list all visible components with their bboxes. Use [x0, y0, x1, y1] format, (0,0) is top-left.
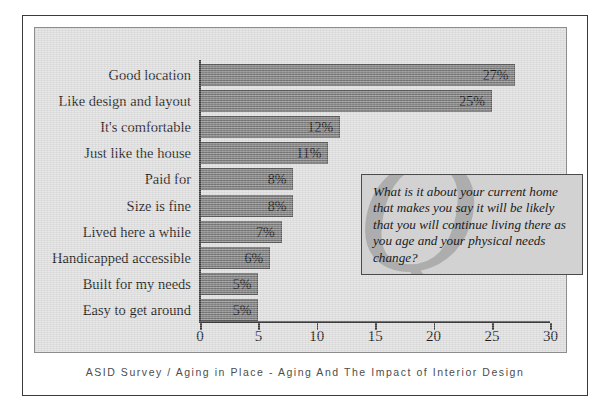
x-axis-tick-label: 5: [243, 328, 273, 345]
category-label: It's comfortable: [100, 116, 191, 138]
bar-value-label: 12%: [307, 117, 333, 139]
bar-value-label: 5%: [233, 300, 252, 322]
bar-row: Just like the house11%: [35, 142, 566, 164]
category-label: Handicapped accessible: [52, 247, 191, 269]
x-axis-tick-label: 30: [535, 328, 565, 345]
y-axis-line: [199, 60, 201, 322]
bar-value-label: 11%: [296, 143, 321, 165]
bar-value-label: 8%: [268, 169, 287, 191]
bar: 8%: [200, 168, 293, 190]
bar: 11%: [200, 142, 328, 164]
bar: 27%: [200, 64, 515, 86]
x-axis-tick-label: 25: [477, 328, 507, 345]
bar-value-label: 25%: [459, 91, 485, 113]
bar-value-label: 7%: [256, 222, 275, 244]
bar-value-label: 8%: [268, 196, 287, 218]
bar: 5%: [200, 273, 258, 295]
page-frame: Good location27%Like design and layout25…: [22, 15, 588, 396]
bar: 5%: [200, 299, 258, 321]
bar-value-label: 5%: [233, 274, 252, 296]
bar: 25%: [200, 90, 492, 112]
bar: 8%: [200, 195, 293, 217]
category-label: Paid for: [145, 168, 191, 190]
x-axis-tick-label: 20: [419, 328, 449, 345]
bar-value-label: 27%: [483, 65, 509, 87]
survey-question-callout: Q What is it about your current home tha…: [361, 174, 583, 275]
footer-caption: ASID Survey / Aging in Place - Aging And…: [35, 366, 575, 378]
bar: 12%: [200, 116, 340, 138]
bar: 6%: [200, 247, 270, 269]
bar: 7%: [200, 221, 282, 243]
bar-row: Built for my needs5%: [35, 273, 566, 295]
x-axis-tick-label: 0: [185, 328, 215, 345]
category-label: Easy to get around: [83, 299, 191, 321]
bar-row: Good location27%: [35, 64, 566, 86]
category-label: Like design and layout: [59, 90, 191, 112]
bar-value-label: 6%: [244, 248, 263, 270]
chart-panel: Good location27%Like design and layout25…: [34, 27, 567, 353]
category-label: Built for my needs: [83, 273, 191, 295]
bar-row: Like design and layout25%: [35, 90, 566, 112]
category-label: Lived here a while: [83, 221, 191, 243]
category-label: Size is fine: [127, 195, 191, 217]
x-axis-tick-label: 10: [302, 328, 332, 345]
category-label: Good location: [108, 64, 191, 86]
x-axis-tick-label: 15: [360, 328, 390, 345]
category-label: Just like the house: [84, 142, 191, 164]
survey-question-text: What is it about your current home that …: [373, 184, 572, 266]
bar-row: It's comfortable12%: [35, 116, 566, 138]
bar-row: Easy to get around5%: [35, 299, 566, 321]
